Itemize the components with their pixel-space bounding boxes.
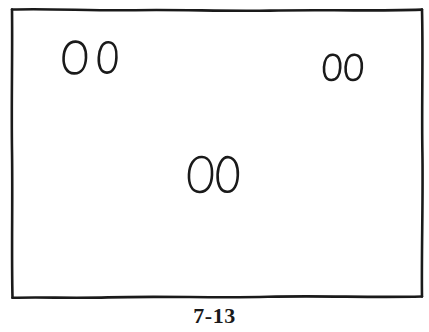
figure-container: 7-13 bbox=[0, 0, 429, 332]
figure-caption: 7-13 bbox=[0, 303, 429, 329]
panel-border-bottom bbox=[13, 296, 423, 297]
panel-border-left bbox=[12, 10, 13, 298]
panel-border-right bbox=[422, 10, 423, 297]
figure-drawing-canvas bbox=[0, 0, 429, 332]
panel-border-top bbox=[12, 9, 422, 11]
